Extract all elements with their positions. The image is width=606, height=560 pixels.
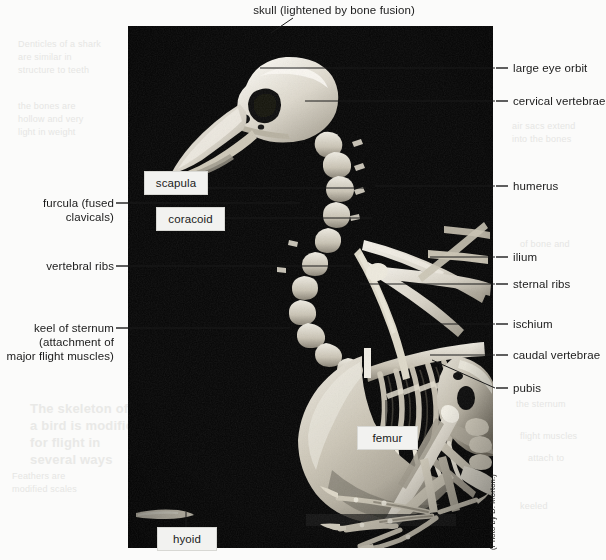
bleed-text: air sacs extend into the bones	[512, 120, 576, 146]
bleed-text: flight muscles	[520, 430, 577, 443]
label-skull: skull (lightened by bone fusion)	[244, 3, 424, 17]
label-large-eye-orbit: large eye orbit	[513, 61, 587, 75]
label-box-femur: femur	[357, 426, 418, 450]
skeleton-photograph	[128, 26, 493, 548]
leader-ticks	[496, 68, 508, 388]
leader-ticks-left	[116, 203, 128, 328]
label-caudal-vertebrae: caudal vertebrae	[513, 348, 600, 362]
bleed-text: attach to	[528, 452, 564, 465]
label-vertebral-ribs: vertebral ribs	[0, 259, 114, 273]
label-keel-line1: keel of sternum	[0, 321, 114, 335]
label-pubis: pubis	[513, 381, 541, 395]
label-box-scapula: scapula	[144, 171, 208, 195]
label-ilium: ilium	[513, 250, 537, 264]
label-humerus: humerus	[513, 179, 558, 193]
bleed-text: the bones are hollow and very light in w…	[18, 100, 84, 139]
bleed-text: keeled	[520, 500, 548, 513]
bleed-text: Feathers are modified scales	[12, 470, 77, 496]
label-keel-line3: major flight muscles)	[0, 349, 114, 363]
label-sternal-ribs: sternal ribs	[513, 277, 570, 291]
photo-credit: (Photo by D. Morton.)	[488, 474, 497, 550]
label-box-coracoid: coracoid	[156, 207, 225, 231]
label-ischium: ischium	[513, 317, 553, 331]
bleed-text: The skeleton of a bird is modified for f…	[30, 400, 141, 468]
label-cervical-vertebrae: cervical vertebrae	[513, 94, 606, 108]
bleed-text: the sternum	[516, 398, 566, 411]
label-furcula-line2: clavicals)	[0, 210, 114, 224]
label-keel-line2: (attachment of	[0, 335, 114, 349]
label-box-hyoid: hyoid	[157, 527, 217, 551]
bleed-text: Denticles of a shark are similar in stru…	[18, 38, 101, 77]
label-furcula-line1: furcula (fused	[0, 196, 114, 210]
